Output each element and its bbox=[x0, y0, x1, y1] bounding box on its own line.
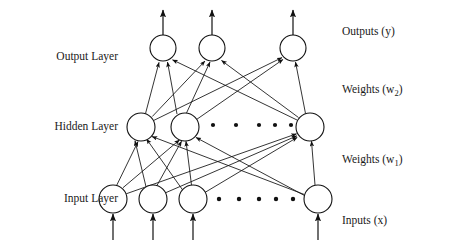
output-node-1 bbox=[150, 35, 176, 61]
edge-h1-o3 bbox=[154, 58, 282, 121]
hidden-ellipsis-dot bbox=[273, 123, 277, 127]
input-ellipsis-dot bbox=[237, 197, 241, 201]
hidden-layer-label: Hidden Layer bbox=[18, 121, 118, 133]
input-node-n bbox=[304, 185, 332, 213]
edge-h2-o2 bbox=[187, 62, 211, 113]
hidden-node-1 bbox=[127, 113, 155, 141]
input-ellipsis-dot bbox=[274, 197, 278, 201]
edge-hN-o1 bbox=[173, 60, 298, 120]
weights-w2-label: Weights (w2) bbox=[342, 84, 403, 98]
edge-inN-h2 bbox=[196, 138, 305, 196]
output-layer-label: Output Layer bbox=[18, 51, 118, 63]
output-arrows bbox=[163, 10, 293, 35]
edge-hN-o3 bbox=[296, 62, 306, 114]
hidden-node-2 bbox=[171, 113, 199, 141]
hidden-layer-ellipsis bbox=[211, 123, 293, 127]
edge-inN-h3 bbox=[312, 141, 316, 185]
inputs-label: Inputs (x) bbox=[342, 215, 387, 227]
outputs-label: Outputs (y) bbox=[342, 26, 395, 38]
edge-in3-h1 bbox=[147, 139, 183, 190]
input-arrows bbox=[113, 214, 318, 240]
input-ellipsis-dot bbox=[257, 197, 261, 201]
weights-w1-label: Weights (w1) bbox=[342, 154, 403, 168]
input-layer-ellipsis bbox=[217, 197, 295, 201]
output-layer-nodes bbox=[150, 35, 306, 61]
edge-in3-h2 bbox=[186, 141, 192, 185]
hidden-node-n bbox=[296, 113, 324, 141]
edge-in1-h1 bbox=[117, 142, 138, 186]
hidden-ellipsis-dot bbox=[234, 123, 238, 127]
input-ellipsis-dot bbox=[217, 197, 221, 201]
weights-w2-close: ) bbox=[399, 83, 403, 95]
neural-network-figure: Output Layer Hidden Layer Input Layer Ou… bbox=[0, 0, 453, 245]
input-node-3 bbox=[179, 185, 207, 213]
edge-in1-h2 bbox=[123, 140, 180, 188]
weights-w1-close: ) bbox=[399, 153, 403, 165]
edge-h2-o3 bbox=[197, 60, 284, 120]
edge-h2-o1 bbox=[168, 62, 178, 114]
input-node-2 bbox=[139, 185, 167, 213]
input-layer-nodes bbox=[99, 185, 332, 213]
edge-h1-o1 bbox=[146, 62, 160, 113]
hidden-ellipsis-dot bbox=[211, 123, 215, 127]
edge-in2-h1 bbox=[135, 141, 146, 187]
output-node-2 bbox=[199, 35, 225, 61]
output-node-3 bbox=[280, 35, 306, 61]
input-ellipsis-dot bbox=[291, 197, 295, 201]
input-layer-label: Input Layer bbox=[18, 193, 118, 205]
edge-inN-h1 bbox=[152, 137, 305, 195]
weights-w1-text: Weights (w bbox=[342, 153, 394, 165]
hidden-ellipsis-dot bbox=[289, 123, 293, 127]
hidden-ellipsis-dot bbox=[257, 123, 261, 127]
weights-w2-text: Weights (w bbox=[342, 83, 394, 95]
edges-hidden-to-output bbox=[146, 58, 306, 121]
